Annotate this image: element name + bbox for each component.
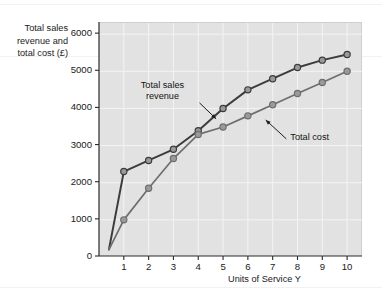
x-axis-title: Units of Service Y bbox=[228, 274, 301, 284]
data-point bbox=[146, 185, 152, 191]
chart-figure: Total sales revenue and total cost (£) 0… bbox=[0, 0, 382, 296]
annotation-total-cost-line-1: Total cost bbox=[290, 132, 329, 144]
x-tick-label: 5 bbox=[214, 261, 232, 272]
x-tick-label: 1 bbox=[115, 261, 133, 272]
data-point bbox=[220, 105, 226, 111]
y-tick-label: 1000 bbox=[56, 213, 92, 224]
y-tick-label: 6000 bbox=[56, 27, 92, 38]
x-tick-label: 9 bbox=[313, 261, 331, 272]
annotation-total-cost: Total cost bbox=[290, 132, 329, 144]
y-tick-label: 0 bbox=[56, 250, 92, 261]
data-point bbox=[270, 76, 276, 82]
data-point bbox=[245, 113, 251, 119]
y-axis-title-line-3: total cost (£) bbox=[2, 47, 68, 60]
data-point bbox=[270, 102, 276, 108]
y-tick-label: 3000 bbox=[56, 139, 92, 150]
data-point bbox=[319, 79, 325, 85]
x-tick-label: 2 bbox=[140, 261, 158, 272]
data-point bbox=[220, 124, 226, 130]
data-point bbox=[319, 57, 325, 63]
data-point bbox=[170, 146, 176, 152]
data-point bbox=[294, 90, 300, 96]
data-point bbox=[344, 68, 350, 74]
annotation-total-sales-revenue-line-1: Total sales bbox=[125, 80, 199, 92]
y-tick-label: 5000 bbox=[56, 64, 92, 75]
data-point bbox=[121, 217, 127, 223]
data-point bbox=[121, 168, 127, 174]
scan-artifact-top bbox=[0, 4, 382, 5]
annotation-total-sales-revenue: Total sales revenue bbox=[125, 80, 199, 103]
data-point bbox=[245, 87, 251, 93]
scan-artifact-bottom bbox=[0, 287, 382, 288]
x-tick-label: 10 bbox=[338, 261, 356, 272]
x-tick-label: 7 bbox=[264, 261, 282, 272]
annotation-total-sales-revenue-line-2: revenue bbox=[125, 91, 199, 103]
x-tick-label: 6 bbox=[239, 261, 257, 272]
data-point bbox=[344, 51, 350, 57]
y-tick-label: 4000 bbox=[56, 101, 92, 112]
data-point bbox=[146, 157, 152, 163]
x-tick-label: 3 bbox=[164, 261, 182, 272]
data-point bbox=[294, 64, 300, 70]
data-point bbox=[170, 155, 176, 161]
data-point bbox=[195, 131, 201, 137]
x-tick-label: 4 bbox=[189, 261, 207, 272]
y-tick-label: 2000 bbox=[56, 176, 92, 187]
x-tick-label: 8 bbox=[288, 261, 306, 272]
